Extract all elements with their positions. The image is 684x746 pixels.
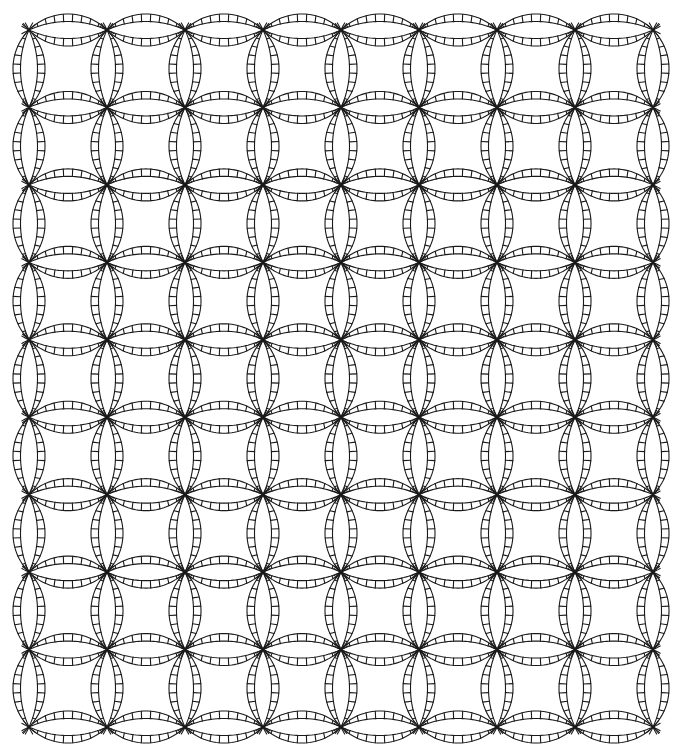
seam-line: [271, 111, 272, 114]
seam-line: [267, 193, 270, 194]
seam-line: [644, 576, 645, 579]
seam-line: [132, 713, 133, 720]
arc-inner-edge: [568, 104, 660, 116]
arc-inner-edge: [568, 723, 660, 735]
arc-inner-edge: [256, 254, 348, 266]
seam-line: [549, 580, 550, 587]
seam-line: [503, 90, 508, 91]
seam-line: [579, 331, 582, 332]
seam-line: [410, 333, 411, 336]
seam-line: [661, 701, 668, 702]
seam-line: [427, 731, 428, 734]
seam-line: [37, 624, 44, 625]
seam-line: [18, 90, 23, 91]
seam-line: [402, 251, 403, 256]
seam-line: [600, 735, 601, 742]
seam-line: [564, 124, 569, 125]
seam-line: [427, 333, 428, 336]
seam-line: [15, 597, 22, 598]
seam-line: [100, 38, 103, 39]
seam-line: [402, 113, 403, 118]
seam-line: [488, 256, 489, 259]
seam-line: [581, 666, 586, 667]
seam-line: [267, 253, 270, 254]
seam-line: [480, 578, 481, 583]
seam-line: [636, 191, 637, 196]
seam-line: [659, 323, 664, 324]
seam-line: [115, 159, 122, 160]
seam-line: [402, 329, 403, 334]
seam-line: [642, 588, 647, 589]
seam-line: [100, 486, 103, 487]
arc-inner-edge: [568, 336, 660, 348]
seam-line: [332, 256, 333, 259]
seam-line: [501, 641, 504, 642]
seam-line: [168, 113, 169, 118]
seam-line: [35, 710, 40, 711]
seam-line: [566, 421, 567, 424]
seam-line: [488, 178, 489, 181]
arc-inner-edge: [100, 22, 192, 34]
seam-line: [639, 82, 646, 83]
arc-inner-edge: [25, 255, 37, 347]
seam-line: [93, 237, 100, 238]
seam-line: [252, 400, 257, 401]
arc-inner-edge: [649, 642, 661, 734]
seam-line: [171, 82, 178, 83]
seam-line: [347, 511, 352, 512]
seam-line: [315, 635, 316, 642]
arc-inner-edge: [259, 642, 271, 734]
seam-line: [191, 323, 196, 324]
seam-line: [642, 511, 647, 512]
arc-inner-edge: [178, 104, 270, 116]
seam-line: [201, 191, 202, 196]
arc-inner-edge: [103, 488, 115, 580]
seam-line: [600, 270, 601, 277]
seam-line: [349, 566, 350, 569]
seam-line: [636, 578, 637, 583]
seam-line: [37, 391, 44, 392]
seam-line: [45, 501, 46, 506]
seam-line: [18, 400, 23, 401]
seam-line: [271, 210, 278, 211]
seam-line: [581, 511, 586, 512]
seam-line: [480, 733, 481, 738]
seam-line: [408, 400, 413, 401]
seam-line: [171, 391, 178, 392]
arc-inner-edge: [337, 642, 349, 734]
arc-inner-edge: [178, 336, 270, 348]
seam-line: [90, 19, 91, 24]
seam-line: [627, 171, 628, 178]
seam-line: [201, 638, 202, 643]
seam-line: [189, 503, 192, 504]
seam-line: [480, 329, 481, 334]
seam-line: [159, 403, 160, 410]
seam-line: [483, 365, 490, 366]
arc-inner-edge: [256, 564, 348, 576]
seam-line: [90, 346, 91, 351]
seam-line: [636, 484, 637, 489]
seam-line: [600, 580, 601, 587]
arc-inner-edge: [22, 22, 114, 34]
seam-line: [568, 270, 571, 271]
arc-inner-edge: [99, 255, 111, 347]
seam-line: [271, 82, 278, 83]
seam-line: [18, 201, 23, 202]
seam-line: [423, 270, 426, 271]
seam-line: [237, 192, 238, 199]
arc-inner-edge: [490, 491, 582, 503]
seam-line: [15, 365, 22, 366]
seam-line: [269, 90, 274, 91]
seam-line: [191, 588, 196, 589]
seam-line: [581, 245, 586, 246]
seam-line: [347, 477, 352, 478]
seam-line: [330, 588, 335, 589]
seam-line: [522, 171, 523, 178]
seam-line: [15, 701, 22, 702]
seam-line: [483, 82, 490, 83]
arc-inner-edge: [490, 719, 582, 731]
seam-line: [81, 93, 82, 100]
seam-line: [178, 115, 181, 116]
seam-line: [471, 171, 472, 178]
seam-line: [93, 391, 100, 392]
